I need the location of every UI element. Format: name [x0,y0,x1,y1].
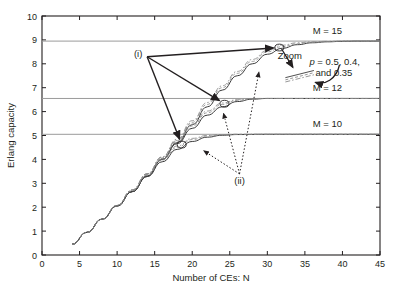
y-tick-label: 10 [27,12,37,22]
asymptote-label: M = 12 [313,82,342,93]
asymptote-label: M = 15 [313,25,342,36]
asymptote-label: M = 10 [313,118,342,129]
y-tick-label: 7 [32,83,37,93]
zoom-inset-curve [285,75,314,82]
y-tick-label: 6 [32,107,37,117]
y-tick-label: 5 [32,131,37,141]
p-values-rest: = 0.5, 0.4, [315,56,360,67]
y-axis-label: Erlang capacity [5,103,16,168]
zoom-inset-curve [285,70,314,77]
p-values-line1: p = 0.5, 0.4, [308,56,359,67]
curve-solid [72,134,380,244]
zoom-label: Zoom [278,50,302,61]
arrow-ii [224,114,240,174]
x-tick-label: 10 [112,259,122,269]
y-tick-label: 9 [32,35,37,45]
x-tick-label: 30 [262,259,272,269]
x-tick-label: 35 [300,259,310,269]
x-tick-label: 45 [375,259,385,269]
curve-dashed [72,134,380,244]
x-axis-label: Number of CEs: N [172,272,249,283]
arrow-i [147,57,179,139]
y-tick-label: 8 [32,59,37,69]
x-tick-label: 0 [39,259,44,269]
p-values-line2: and 0.35 [315,67,352,78]
x-tick-label: 40 [337,259,347,269]
y-tick-label: 4 [32,155,37,165]
curve-dashdot [72,134,380,244]
erlang-capacity-figure: 051015202530354045012345678910Number of … [0,0,394,294]
y-tick-label: 2 [32,203,37,213]
arrow-ii [240,72,259,174]
label-ii: (ii) [234,175,245,186]
arrow-i [147,57,219,101]
y-tick-label: 3 [32,179,37,189]
y-tick-label: 1 [32,227,37,237]
label-i: (i) [134,48,142,59]
arrow-i [147,48,273,57]
y-tick-label: 0 [32,251,37,261]
arrow-ii [204,151,240,174]
x-tick-label: 25 [225,259,235,269]
erlang-capacity-chart: 051015202530354045012345678910Number of … [0,0,394,294]
x-tick-label: 20 [187,259,197,269]
x-tick-label: 15 [150,259,160,269]
x-tick-label: 5 [77,259,82,269]
